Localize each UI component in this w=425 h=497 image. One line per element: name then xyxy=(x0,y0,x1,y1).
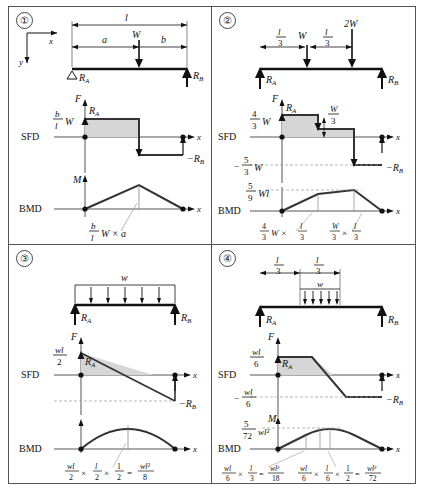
svg-text:l: l xyxy=(250,464,252,473)
svg-text:3: 3 xyxy=(354,233,358,242)
sfd-peak-label: wl 6 xyxy=(250,347,264,369)
svg-text:wl: wl xyxy=(55,345,64,355)
sfd-x-axis-label: x xyxy=(395,132,400,142)
reaction-RB-label: RB xyxy=(192,70,204,83)
svg-text:5: 5 xyxy=(244,419,249,429)
svg-text:l: l xyxy=(325,27,328,37)
svg-text:−: − xyxy=(234,161,239,171)
svg-text:wl²: wl² xyxy=(270,464,280,473)
svg-text:×: × xyxy=(342,228,347,238)
dim-l3-right: l 3 xyxy=(323,27,333,48)
sfd-negRB-label: −RB xyxy=(187,153,205,166)
svg-text:3: 3 xyxy=(316,266,321,276)
sfd-peak-label: wl 2 xyxy=(53,345,67,367)
reaction-RA-label: RA xyxy=(265,74,277,87)
bmd-peak-label: 5 9 Wl xyxy=(246,181,269,203)
sfd-y-axis-label: F xyxy=(271,93,279,104)
panel-1-sfd: SFD x F b l xyxy=(21,93,205,173)
svg-text:6: 6 xyxy=(254,359,259,369)
svg-text:l: l xyxy=(91,233,94,243)
svg-text:W: W xyxy=(332,222,340,231)
svg-text:72: 72 xyxy=(369,474,377,483)
panel-2-sfd: SFD x F 4 xyxy=(218,93,404,183)
bmd-row-label: BMD xyxy=(218,443,241,454)
svg-text:6: 6 xyxy=(246,399,251,409)
panel-4: ④ l l w xyxy=(212,245,415,483)
svg-text:3: 3 xyxy=(278,38,283,48)
svg-text:=: = xyxy=(259,470,264,479)
panel-2: ② l 3 l 3 W xyxy=(212,7,415,245)
reaction-RB-label: RB xyxy=(387,314,399,327)
panel-4-bmd: BMD x M 5 72 wl² xyxy=(218,413,400,483)
svg-text:W: W xyxy=(330,104,339,114)
svg-text:3: 3 xyxy=(331,116,336,126)
svg-text:wl: wl xyxy=(224,464,231,473)
sfd-min-label: − wl 6 xyxy=(234,387,256,409)
svg-text:3: 3 xyxy=(250,474,254,483)
svg-text:×: × xyxy=(238,470,243,479)
panel-4-beam: l l w RA RB 33 xyxy=(255,255,399,327)
panel-1-beam: l a b W RA RB xyxy=(67,12,204,87)
svg-text:6: 6 xyxy=(226,474,230,483)
panel-3-sfd: SFD x F wl 2 xyxy=(21,331,197,415)
udl-arrows xyxy=(303,291,339,305)
bmd-x-axis-label: x xyxy=(395,206,400,216)
bmd-formula: wl 2 × l 2 × 1 2 = wl² 8 xyxy=(65,462,154,482)
panel-1-drawing: x y l a b xyxy=(9,7,213,246)
svg-text:W: W xyxy=(262,116,272,127)
svg-text:=: = xyxy=(127,468,132,478)
svg-text:b: b xyxy=(55,109,60,119)
sfd-peak-label: 4 3 W xyxy=(250,109,272,131)
udl-label: w xyxy=(317,279,323,289)
svg-text:b: b xyxy=(91,221,96,231)
sfd-y-axis-label: F xyxy=(70,331,78,342)
panel-3-drawing: w RA RB SFD x xyxy=(9,245,213,484)
svg-text:6: 6 xyxy=(302,474,306,483)
panel-3: ③ w RA RB xyxy=(9,245,212,483)
bmd-x-axis-label: x xyxy=(395,444,400,454)
svg-text:l: l xyxy=(326,464,328,473)
bmd-formula-left: wl 6 × l 3 = wl² 18 xyxy=(222,464,284,483)
panel-grid: ① x y l xyxy=(8,6,416,484)
svg-text:=: = xyxy=(355,470,360,479)
svg-text:3: 3 xyxy=(325,38,330,48)
dim-b-label: b xyxy=(161,34,166,45)
svg-text:3: 3 xyxy=(262,233,266,242)
dim-l3-right-label: l xyxy=(316,255,319,265)
bmd-row-label: BMD xyxy=(19,203,42,214)
sfd-negRB-label: −RB xyxy=(179,398,197,411)
svg-text:2: 2 xyxy=(69,473,73,482)
svg-text:wl: wl xyxy=(300,464,307,473)
panel-3-beam: w RA RB xyxy=(70,272,192,325)
legend-y-label: y xyxy=(18,57,23,67)
sfd-row-label: SFD xyxy=(21,369,39,380)
reaction-RA-label: RA xyxy=(78,72,90,85)
panel-2-beam: l 3 l 3 W 2W RA RB xyxy=(255,18,399,89)
svg-text:wl²: wl² xyxy=(258,427,270,437)
svg-text:3: 3 xyxy=(244,167,249,177)
svg-text:W ×: W × xyxy=(271,228,287,238)
svg-text:3: 3 xyxy=(300,233,304,242)
sfd-x-axis-label: x xyxy=(196,132,201,142)
bmd-row-label: BMD xyxy=(218,205,241,216)
sfd-peak-label: b l W xyxy=(53,109,75,131)
panel-2-bmd: BMD x 5 9 Wl 4 xyxy=(218,181,400,242)
bmd-formula: b l W × a xyxy=(89,221,126,243)
svg-text:3: 3 xyxy=(332,233,336,242)
svg-text:5: 5 xyxy=(248,181,253,191)
panel-4-sfd: SFD x F wl 6 xyxy=(218,331,404,417)
udl-label: w xyxy=(121,272,128,283)
svg-text:1: 1 xyxy=(117,462,121,471)
sfd-row-label: SFD xyxy=(218,131,236,142)
svg-text:Wl: Wl xyxy=(258,188,269,199)
udl-arrows xyxy=(89,287,161,304)
svg-text:1: 1 xyxy=(346,464,350,473)
svg-text:l: l xyxy=(278,27,281,37)
panel-1: ① x y l xyxy=(9,7,212,245)
load-W-label: W xyxy=(132,29,142,40)
svg-text:2: 2 xyxy=(95,473,99,482)
dim-a-label: a xyxy=(102,34,107,45)
figure-sheet: ① x y l xyxy=(0,0,425,497)
load-W-label: W xyxy=(298,30,308,41)
sfd-RA-label: RA xyxy=(88,105,100,118)
